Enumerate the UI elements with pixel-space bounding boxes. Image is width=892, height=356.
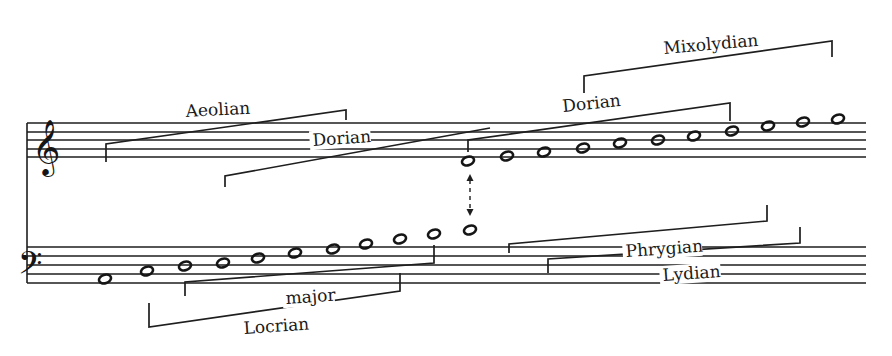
clefs: 𝄞𝄢	[18, 118, 60, 289]
mode-label-lydian: Lydian	[659, 261, 721, 285]
bass-whole-note	[140, 265, 154, 277]
staves	[27, 123, 866, 283]
mode-label-text: Phrygian	[625, 236, 704, 261]
treble-whole-note	[576, 142, 590, 154]
bass-clef-icon: 𝄢	[18, 245, 42, 289]
treble-whole-note	[500, 150, 514, 162]
connector-arrow-icon	[467, 174, 474, 216]
bass-whole-note	[393, 233, 407, 245]
mode-label-major: major	[282, 284, 337, 308]
arrow-up-icon	[467, 174, 474, 181]
bass-whole-note	[359, 238, 373, 250]
bass-whole-note	[251, 252, 265, 264]
bass-whole-note	[178, 260, 192, 272]
mode-label-text: Locrian	[243, 313, 310, 338]
bass-whole-note	[427, 228, 441, 240]
treble-whole-note	[796, 116, 810, 128]
mode-label-text: Aeolian	[184, 98, 251, 121]
mode-diagram: 𝄞𝄢 AeolianDorianDorianMixolydianPhrygian…	[0, 0, 892, 356]
mode-label-aeolian: Aeolian	[182, 97, 253, 121]
score-canvas: 𝄞𝄢 AeolianDorianDorianMixolydianPhrygian…	[0, 0, 892, 356]
treble-whole-note	[613, 137, 627, 149]
mode-label-dorian: Dorian	[309, 126, 372, 150]
mode-label-text: major	[285, 284, 337, 307]
treble-whole-note	[725, 125, 739, 137]
mode-label-text: Lydian	[662, 261, 721, 285]
treble-clef-icon: 𝄞	[32, 118, 60, 177]
treble-whole-note	[761, 120, 775, 132]
treble-whole-note	[537, 146, 551, 158]
bass-whole-note	[326, 243, 340, 255]
bass-whole-note	[288, 247, 302, 259]
mode-label-text: Dorian	[561, 90, 621, 116]
mode-label-phrygian: Phrygian	[622, 236, 704, 262]
bass-whole-note	[463, 224, 477, 236]
mode-label-text: Dorian	[312, 126, 372, 150]
arrow-down-icon	[467, 209, 474, 216]
bass-whole-note	[216, 257, 230, 269]
mode-label-locrian: Locrian	[240, 313, 312, 338]
mode-brackets	[106, 41, 832, 327]
mode-label-dorian: Dorian	[558, 90, 621, 116]
